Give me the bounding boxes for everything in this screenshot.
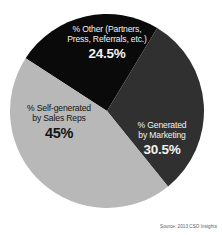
pie-slice-group — [10, 14, 204, 208]
pie-chart-figure: % Other (Partners, Press, Referrals, etc… — [0, 0, 222, 235]
source-caption: Source: 2013 CSO Insights — [160, 224, 217, 229]
pie-chart-graphic — [0, 0, 222, 235]
